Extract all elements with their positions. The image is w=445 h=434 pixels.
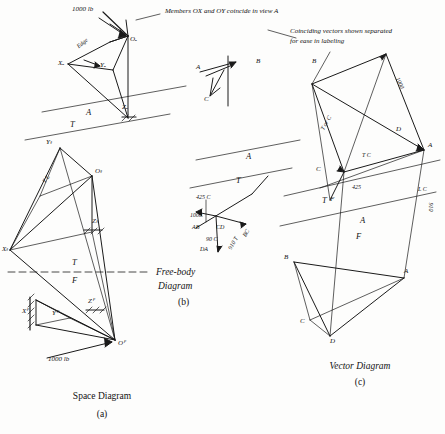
- vd-label-B-bottom: B: [284, 254, 288, 261]
- point-X-T: Xₜ: [2, 246, 8, 253]
- label-load-bottom: 1000 lb: [48, 356, 69, 363]
- point-O-T: Oₜ: [95, 168, 102, 175]
- point-X-A: Xₐ: [58, 60, 64, 67]
- vd-view-F: F: [356, 232, 361, 241]
- fb-force-cd: CD: [216, 224, 224, 230]
- title-space-diagram: Space Diagram: [42, 392, 162, 402]
- point-Z-F: Zꟳ: [88, 298, 94, 305]
- vd-label-D-bottom: D: [330, 338, 335, 345]
- fb-force-da: DA: [200, 246, 208, 252]
- point-Y-F: Yꟳ: [52, 310, 58, 317]
- title-free-body-2: Diagram: [158, 282, 192, 292]
- view-letter-A-top: A: [86, 108, 91, 117]
- fb-label-A: A: [196, 64, 200, 71]
- vd-label-F: F: [330, 196, 334, 203]
- note-right-line2: for ease in labeling: [290, 38, 410, 45]
- vd-mag-tc: T C: [362, 152, 371, 158]
- vd-label-B-top: B: [312, 58, 316, 65]
- point-O-F: Oꟳ: [118, 340, 125, 347]
- fb-view-T: T: [236, 176, 241, 185]
- view-letter-T-top: T: [70, 120, 75, 129]
- title-vector-diagram: Vector Diagram: [300, 362, 420, 372]
- view-letter-F-mid: F: [72, 276, 77, 285]
- vd-mag-910: 910: [428, 203, 434, 212]
- vd-label-C-mid: C: [316, 166, 321, 173]
- caption-c: (c): [300, 378, 420, 388]
- vd-label-A-right: A: [428, 142, 432, 149]
- point-Z-A: Zₐ: [122, 104, 128, 111]
- vd-view-A: A: [360, 216, 365, 225]
- vd-label-A-bottom: A: [404, 268, 408, 275]
- fb-force-90: 90 C: [206, 236, 218, 242]
- fb-view-A: A: [246, 152, 251, 161]
- fb-force-425: 425 C: [196, 194, 211, 200]
- caption-b: (b): [178, 298, 189, 308]
- fb-force-1000: 1000: [190, 212, 202, 218]
- caption-a: (a): [42, 410, 162, 420]
- vd-mag-425: 425: [352, 184, 361, 190]
- vd-label-D-mid: D: [396, 126, 401, 133]
- point-Y-T: Yₜ: [46, 139, 52, 146]
- note-right-line1: Coinciding vectors shown separated: [290, 28, 410, 35]
- fb-force-ab: AB: [192, 224, 199, 230]
- vd-mag-lc: L C: [418, 186, 427, 192]
- view-letter-T-mid: T: [72, 258, 77, 267]
- title-free-body-1: Free-body: [156, 268, 195, 278]
- point-O-A: Oₐ: [130, 36, 137, 43]
- vd-view-T: T: [322, 196, 327, 205]
- point-X-F: Xꟳ: [22, 308, 28, 315]
- point-Y-A: Yₐ: [100, 62, 106, 69]
- figure-root: 1000 lb Edge Members OX and OY coincide …: [0, 0, 445, 434]
- label-load-top: 1000 lb: [72, 6, 93, 13]
- fb-label-C: C: [204, 96, 209, 103]
- vd-label-C-bottom: C: [300, 318, 305, 325]
- fb-label-B: B: [256, 58, 260, 65]
- note-top: Members OX and OY coincide in view A: [165, 8, 278, 15]
- point-Z-T: Zₜ: [92, 218, 98, 225]
